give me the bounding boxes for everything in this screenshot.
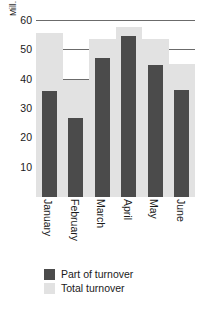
legend-item[interactable]: Part of turnover — [44, 269, 133, 280]
bar-group[interactable] — [169, 21, 196, 197]
y-axis-unit-label: Mill. — [9, 1, 18, 16]
legend-swatch — [44, 283, 55, 294]
x-axis-tick-label: May — [149, 199, 160, 219]
x-axis-tick-label: January — [43, 199, 54, 236]
bar-group[interactable] — [63, 21, 90, 197]
legend-label: Part of turnover — [61, 269, 133, 280]
legend-label: Total turnover — [61, 283, 125, 294]
bar-part-of-turnover[interactable] — [95, 58, 110, 197]
bar-chart: Mill. 102030405060 JanuaryFebruaryMarchA… — [0, 0, 205, 313]
plot-area: 102030405060 — [36, 21, 195, 197]
y-axis-tick-label: 60 — [20, 15, 32, 26]
bar-group[interactable] — [89, 21, 116, 197]
x-axis-tick-label: March — [96, 199, 107, 228]
y-axis-tick-label: 40 — [20, 73, 32, 84]
y-axis-tick-label: 30 — [20, 103, 32, 114]
bar-group[interactable] — [142, 21, 169, 197]
bar-group[interactable] — [36, 21, 63, 197]
bar-part-of-turnover[interactable] — [68, 118, 83, 197]
y-axis-tick-label: 50 — [20, 44, 32, 55]
y-axis-tick-label: 10 — [20, 161, 32, 172]
bar-part-of-turnover[interactable] — [148, 65, 163, 197]
legend-item[interactable]: Total turnover — [44, 283, 133, 294]
legend-swatch — [44, 269, 55, 280]
bar-group-container — [36, 21, 195, 197]
x-axis-tick-label: June — [175, 199, 186, 222]
bar-group[interactable] — [116, 21, 143, 197]
y-axis-tick-label: 20 — [20, 132, 32, 143]
x-axis-labels: JanuaryFebruaryMarchAprilMayJune — [36, 199, 195, 261]
x-axis-tick-label: February — [69, 199, 80, 241]
bar-part-of-turnover[interactable] — [121, 36, 136, 197]
chart-legend: Part of turnoverTotal turnover — [44, 269, 133, 294]
bar-part-of-turnover[interactable] — [42, 91, 57, 197]
bar-part-of-turnover[interactable] — [174, 90, 189, 197]
x-axis-tick-label: April — [122, 199, 133, 220]
